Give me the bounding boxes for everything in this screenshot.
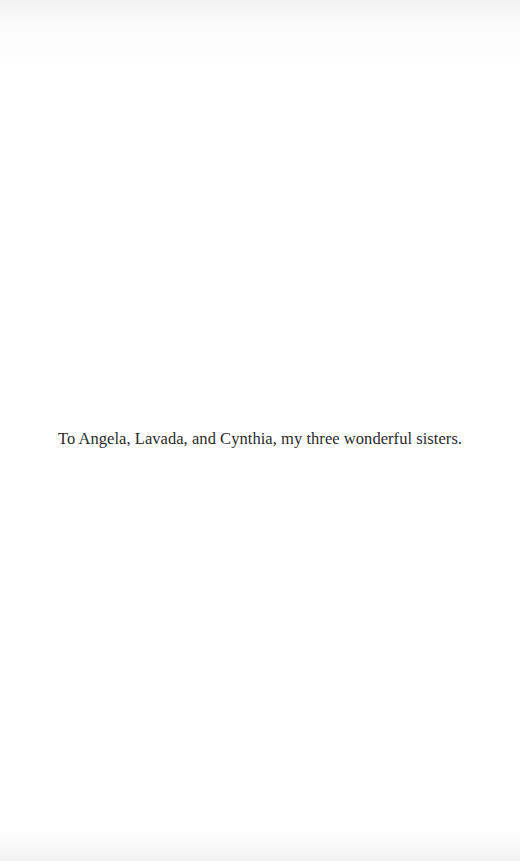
dedication-text: To Angela, Lavada, and Cynthia, my three…	[0, 428, 520, 450]
page-top-edge	[0, 0, 520, 66]
book-page: To Angela, Lavada, and Cynthia, my three…	[0, 0, 520, 861]
page-bottom-edge	[0, 831, 520, 861]
